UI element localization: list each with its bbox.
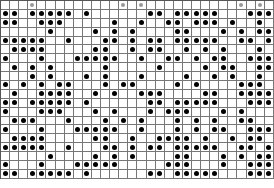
grid-cell [256,117,265,126]
grid-cell [110,63,119,72]
grid-cell [1,10,10,19]
grid-cell [10,63,19,72]
black-dot-icon [157,47,162,52]
grid-cell [201,152,210,161]
grid-cell [174,45,183,54]
grid-cell [46,152,55,161]
black-dot-icon [39,171,44,176]
grid-cell [83,81,92,90]
grid-cell [156,45,165,54]
black-dot-icon [212,56,217,61]
grid-cell [210,54,219,63]
black-dot-icon [103,47,108,52]
grid-cell [56,54,65,63]
black-dot-icon [175,100,180,105]
black-dot-icon [184,109,189,114]
grid-cell [192,99,201,108]
grid-cell [65,81,74,90]
black-dot-icon [248,82,253,87]
grid-cell [37,134,46,143]
gray-dot-icon [121,3,125,7]
grid-cell [156,37,165,46]
black-dot-icon [103,56,108,61]
grid-cell [19,37,28,46]
black-dot-icon [221,127,226,132]
black-dot-icon [12,47,17,52]
black-dot-icon [148,11,153,16]
black-dot-icon [84,162,89,167]
black-dot-icon [184,162,189,167]
grid-cell [183,45,192,54]
black-dot-icon [239,109,244,114]
grid-cell [101,143,110,152]
black-dot-icon [248,100,253,105]
grid-cell [165,108,174,117]
grid-cell [165,117,174,126]
grid-cell [183,10,192,19]
grid-cell [219,54,228,63]
black-dot-icon [66,171,71,176]
black-dot-icon [212,20,217,25]
grid-cell [92,63,101,72]
grid-cell [201,161,210,170]
black-dot-icon [121,118,126,123]
grid-cell [92,54,101,63]
grid-cell [174,81,183,90]
grid-cell [219,117,228,126]
grid-cell [28,117,37,126]
grid-cell [74,161,83,170]
black-dot-icon [93,136,98,141]
black-dot-icon [212,38,217,43]
black-dot-icon [248,91,253,96]
grid-cell [74,54,83,63]
grid-cell [92,117,101,126]
grid-cell [101,72,110,81]
grid-cell [210,1,219,10]
grid-cell [219,81,228,90]
grid-cell [256,63,265,72]
black-dot-icon [175,162,180,167]
grid-cell [92,81,101,90]
grid-cell [19,90,28,99]
grid-cell [10,134,19,143]
grid-cell [183,134,192,143]
black-dot-icon [57,11,62,16]
black-dot-icon [103,82,108,87]
grid-cell [101,63,110,72]
grid-cell [237,63,246,72]
black-dot-icon [3,100,8,105]
black-dot-icon [39,56,44,61]
grid-cell [19,143,28,152]
grid-cell [219,143,228,152]
grid-cell [219,63,228,72]
black-dot-icon [57,109,62,114]
black-dot-icon [103,127,108,132]
grid-cell [46,134,55,143]
grid-cell [46,90,55,99]
grid-cell [256,45,265,54]
grid-cell [147,143,156,152]
grid-cell [192,54,201,63]
black-dot-icon [157,91,162,96]
grid-cell [110,152,119,161]
black-dot-icon [184,154,189,159]
grid-cell [65,28,74,37]
grid-cell [46,99,55,108]
grid-cell [10,170,19,179]
grid-cell [219,72,228,81]
grid-cell [28,125,37,134]
grid-cell [210,81,219,90]
black-dot-icon [112,56,117,61]
grid-cell [92,161,101,170]
grid-cell [119,161,128,170]
grid-cell [219,161,228,170]
grid-cell [28,10,37,19]
grid-cell [101,1,110,10]
grid-cell [10,90,19,99]
grid-cell [237,28,246,37]
grid-cell [174,28,183,37]
grid-cell [37,99,46,108]
black-dot-icon [212,91,217,96]
grid-cell [256,81,265,90]
grid-cell [65,19,74,28]
